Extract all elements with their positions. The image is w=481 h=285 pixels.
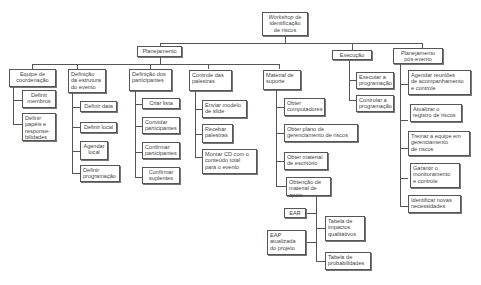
execucao-node: Execução bbox=[332, 50, 372, 60]
connector bbox=[349, 100, 356, 101]
leaf-node: Agendar local bbox=[80, 141, 108, 160]
leaf-node: Definir data bbox=[80, 101, 117, 112]
connector bbox=[316, 261, 325, 262]
connector bbox=[13, 124, 22, 125]
leaf-node: Atualizar o registro de riscos bbox=[410, 104, 462, 122]
leaf-node: Controlar a programação bbox=[356, 95, 394, 112]
connector bbox=[135, 177, 142, 178]
pos-evento-node: Planejamento pós-evento bbox=[393, 48, 443, 64]
connector bbox=[135, 126, 142, 127]
leaf-node: Garantir o monitoramento e controle bbox=[410, 163, 460, 188]
connector bbox=[400, 64, 401, 207]
connector bbox=[72, 93, 73, 173]
connector bbox=[195, 109, 202, 110]
leaf-node: Convidar participantes bbox=[142, 117, 180, 134]
root-title-italic: Workshop bbox=[269, 14, 294, 20]
leaf-node: Executar a programação bbox=[356, 72, 394, 89]
connector bbox=[72, 107, 80, 108]
root-node: Workshop de identificação de riscos bbox=[262, 12, 308, 36]
leaf-node: Confirmar suplentes bbox=[142, 167, 180, 184]
estrutura-evento-node: Definição da estrutura do evento bbox=[68, 69, 106, 93]
connector bbox=[276, 90, 277, 186]
connector bbox=[306, 242, 316, 243]
connector bbox=[400, 178, 408, 179]
connector bbox=[195, 157, 202, 158]
tabela-probabilidades-node: Tabela de probabilidades bbox=[325, 252, 371, 270]
leaf-node: Obter material de escritório bbox=[284, 152, 328, 170]
connector bbox=[135, 152, 142, 153]
ear-node: EAR bbox=[284, 208, 306, 218]
tabela-impactos-node: Tabela de impactos qualitativos bbox=[325, 216, 365, 241]
connector bbox=[276, 186, 286, 187]
connector bbox=[349, 80, 356, 81]
connector bbox=[72, 127, 80, 128]
connector bbox=[400, 148, 408, 149]
connector bbox=[316, 228, 325, 229]
connector bbox=[195, 134, 202, 135]
connector bbox=[135, 104, 142, 105]
leaf-node: Definir papéis e response- bilidades bbox=[22, 113, 56, 141]
leaf-node: Criar lista bbox=[142, 98, 180, 109]
connector bbox=[276, 133, 284, 134]
leaf-node: Definir local bbox=[80, 122, 117, 133]
leaf-node: Identificar novas necessidades bbox=[408, 195, 461, 213]
leaf-node: Obter computadores bbox=[284, 98, 325, 116]
leaf-node: Recebar palestras bbox=[202, 124, 233, 143]
planejamento-node: Planejamento bbox=[137, 46, 182, 57]
connector bbox=[400, 120, 408, 121]
connector bbox=[13, 87, 14, 124]
leaf-node: Confirmar participantes bbox=[142, 142, 180, 159]
connector bbox=[72, 173, 80, 174]
equipe-coordenacao-node: Equipe de coordenação bbox=[9, 69, 56, 87]
connector bbox=[276, 161, 284, 162]
connector bbox=[72, 151, 80, 152]
connector bbox=[160, 43, 422, 44]
leaf-node: Treinar a equipe em gerenciamento de ris… bbox=[408, 131, 470, 156]
connector bbox=[306, 213, 316, 214]
connector bbox=[400, 84, 408, 85]
connector bbox=[400, 206, 408, 207]
participantes-node: Definição dos participantes bbox=[129, 69, 172, 91]
connector bbox=[285, 36, 286, 43]
leaf-node: Enviar modelo de slide bbox=[202, 100, 247, 118]
connector bbox=[208, 64, 209, 69]
connector bbox=[32, 64, 279, 65]
leaf-node: Montar CD com o conteúdo total para o ev… bbox=[202, 149, 257, 174]
connector bbox=[13, 100, 22, 101]
material-apoio-node: Obtenção de material de apoio bbox=[286, 177, 331, 196]
connector bbox=[352, 43, 353, 50]
leaf-node: Definir membros bbox=[22, 90, 56, 108]
connector bbox=[195, 91, 196, 157]
connector bbox=[160, 57, 161, 64]
connector bbox=[276, 107, 284, 108]
leaf-node: Obter plano de gerenciamento de riscos bbox=[284, 124, 358, 142]
leaf-node: Definir programação bbox=[80, 165, 120, 182]
connector bbox=[279, 64, 280, 69]
leaf-node: Agendar reuniões de acompanhamento e con… bbox=[408, 70, 471, 95]
palestras-node: Controle das palestras bbox=[189, 70, 232, 91]
eap-node: EAP atualizada do projeto bbox=[267, 230, 306, 255]
material-suporte-node: Material de suporte bbox=[263, 70, 301, 90]
